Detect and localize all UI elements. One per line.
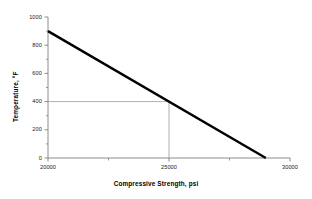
- x-tick-label-25000: 25000: [149, 164, 189, 170]
- x-axis-title: Compressive Strength, psi: [0, 180, 312, 187]
- x-tick-label-20000: 20000: [28, 164, 68, 170]
- y-tick-label-200: 200: [16, 126, 42, 132]
- chart-container: 1000 800 600 400 200 0 20000 25000 30000…: [0, 0, 312, 199]
- y-tick-label-1000: 1000: [16, 14, 42, 20]
- x-major-ticks: [48, 158, 290, 162]
- y-tick-label-800: 800: [16, 42, 42, 48]
- y-tick-label-0: 0: [16, 155, 42, 161]
- y-tick-label-400: 400: [16, 98, 42, 104]
- y-tick-label-600: 600: [16, 70, 42, 76]
- y-axis-title: Temperature, °F: [12, 72, 19, 123]
- data-line-series-0: [48, 31, 266, 158]
- x-tick-label-30000: 30000: [270, 164, 310, 170]
